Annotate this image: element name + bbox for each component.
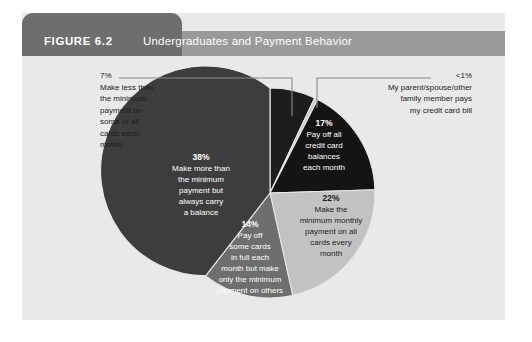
callout-line: My parent/spouse/other (388, 83, 472, 92)
callout-line: my credit card bill (410, 106, 472, 115)
slice-line: payment but (179, 186, 223, 195)
callout-line: payment on (100, 106, 142, 115)
slice-line: minimum monthly (300, 216, 363, 225)
slice-line: each month (303, 163, 345, 172)
slice-label-17: 17% Pay off all credit card balances eac… (278, 118, 370, 173)
pie-chart: 7% Make less than the minimum payment on… (22, 56, 505, 320)
slice-line: always carry (179, 197, 223, 206)
slice-line: payment on all (305, 227, 357, 236)
slice-line: cards every (310, 238, 351, 247)
slice-line: in full each (231, 253, 269, 262)
callout-line: family member pays (400, 94, 472, 103)
figure-title: Undergraduates and Payment Behavior (143, 35, 352, 47)
callout-percent-7: 7% (100, 70, 154, 82)
slice-label-38: 38% Make more than the minimum payment b… (147, 152, 255, 218)
callout-label-under-1: <1% My parent/spouse/other family member… (300, 70, 472, 116)
slice-line: only the minimum (219, 275, 282, 284)
slice-line: a balance (184, 208, 219, 217)
slice-percent-38: 38% (147, 152, 255, 163)
slice-line: balances (308, 152, 340, 161)
slice-percent-22: 22% (276, 193, 386, 204)
callout-line: the minimum (100, 94, 146, 103)
slice-line: Make the (315, 205, 348, 214)
callout-line: some or all (100, 117, 139, 126)
slice-percent-14: 14% (196, 219, 304, 230)
figure-number-label: FIGURE 6.2 (44, 35, 113, 47)
slice-line: month (320, 249, 342, 258)
slice-percent-17: 17% (278, 118, 370, 129)
slice-line: Make more than (172, 164, 230, 173)
slice-line: the minimum (178, 175, 224, 184)
slice-line: month but make (221, 264, 278, 273)
figure-panel: FIGURE 6.2 Undergraduates and Payment Be… (22, 13, 505, 320)
callout-label-7: 7% Make less than the minimum payment on… (100, 70, 154, 151)
slice-label-14: 14% Pay off some cards in full each mont… (196, 219, 304, 296)
callout-line: month (100, 140, 122, 149)
slice-line: payment on others (217, 286, 283, 295)
slice-line: Pay off all (307, 130, 342, 139)
callout-line: cards each (100, 129, 139, 138)
callout-percent-under-1: <1% (300, 70, 472, 82)
slice-line: credit card (305, 141, 342, 150)
slice-line: some cards (229, 242, 270, 251)
callout-line: Make less than (100, 83, 154, 92)
slice-line: Pay off (238, 231, 263, 240)
